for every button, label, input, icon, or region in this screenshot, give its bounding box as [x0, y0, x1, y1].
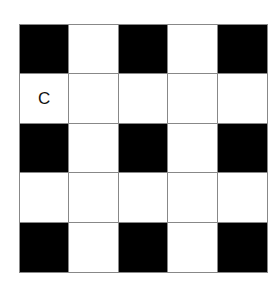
board-cell-r4-c2[interactable] — [119, 223, 168, 272]
board-cell-r1-c2[interactable] — [119, 74, 168, 123]
board-cell-r3-c1[interactable] — [69, 173, 118, 222]
board-cell-r4-c0[interactable] — [20, 223, 69, 272]
board-cell-r0-c2[interactable] — [119, 25, 168, 74]
board-cell-r2-c2[interactable] — [119, 124, 168, 173]
board-cell-r4-c4[interactable] — [218, 223, 267, 272]
board-cell-r0-c1[interactable] — [69, 25, 118, 74]
board-cell-r2-c1[interactable] — [69, 124, 118, 173]
board-cell-r2-c3[interactable] — [168, 124, 217, 173]
board-cell-r1-c3[interactable] — [168, 74, 217, 123]
board-cell-r0-c3[interactable] — [168, 25, 217, 74]
board-cell-r3-c0[interactable] — [20, 173, 69, 222]
board-cell-r3-c2[interactable] — [119, 173, 168, 222]
board-cell-r4-c1[interactable] — [69, 223, 118, 272]
board-cell-r1-c1[interactable] — [69, 74, 118, 123]
board-cell-r1-c0[interactable]: C — [20, 74, 69, 123]
board-cell-r0-c0[interactable] — [20, 25, 69, 74]
game-board: C — [19, 24, 268, 273]
board-cell-r3-c3[interactable] — [168, 173, 217, 222]
board-cell-r1-c4[interactable] — [218, 74, 267, 123]
board-cell-r0-c4[interactable] — [218, 25, 267, 74]
board-cell-r3-c4[interactable] — [218, 173, 267, 222]
board-cell-r4-c3[interactable] — [168, 223, 217, 272]
board-cell-r2-c0[interactable] — [20, 124, 69, 173]
board-cell-r2-c4[interactable] — [218, 124, 267, 173]
